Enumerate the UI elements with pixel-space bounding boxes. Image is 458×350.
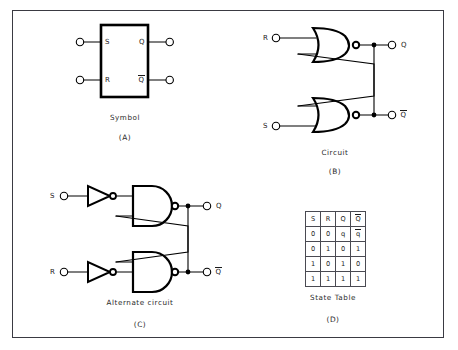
cell-q: 1 xyxy=(336,272,351,287)
panel-b-pin-r: R xyxy=(263,34,268,42)
figure-linework xyxy=(0,0,458,350)
panel-c-pin-qbar: Q xyxy=(216,268,222,276)
panel-b-nor-circuit xyxy=(272,28,395,132)
nand-gate-bottom xyxy=(133,252,172,292)
cell-r: 1 xyxy=(321,272,336,287)
panel-d-caption: State Table xyxy=(283,293,383,302)
table-row: 0 0 q q xyxy=(306,227,366,242)
cell-r: 0 xyxy=(321,257,336,272)
nand-gate-top xyxy=(133,186,172,226)
cell-qbar: q xyxy=(351,227,366,242)
cell-qbar: 1 xyxy=(351,272,366,287)
cell-qbar: 0 xyxy=(351,257,366,272)
panel-a-pin-qbar-text: Q xyxy=(139,76,145,84)
panel-a-caption: Symbol xyxy=(75,113,175,122)
panel-c-pin-r: R xyxy=(50,268,55,276)
panel-a-pin-s: S xyxy=(105,38,109,46)
panel-c-caption: Alternate circuit xyxy=(85,298,195,307)
panel-a-pin-qbar: Q xyxy=(139,76,145,84)
state-table: S R Q Q 0 0 q q 0 1 0 1 1 0 1 xyxy=(305,211,366,287)
state-table-header-s: S xyxy=(306,212,321,227)
panel-b-pin-qbar-text: Q xyxy=(401,111,407,119)
state-table-header-qbar: Q xyxy=(351,212,366,227)
panel-c-pin-q: Q xyxy=(216,202,222,210)
cell-q: 1 xyxy=(336,257,351,272)
panel-a-letter: (A) xyxy=(75,133,175,142)
panel-c-pin-qbar-text: Q xyxy=(216,268,222,276)
panel-b-pin-qbar: Q xyxy=(401,111,407,119)
cell-qbar: 1 xyxy=(351,242,366,257)
cell-s: 1 xyxy=(306,272,321,287)
cell-s: 0 xyxy=(306,227,321,242)
state-table-header-r: R xyxy=(321,212,336,227)
table-row: 1 1 1 1 xyxy=(306,272,366,287)
cell-s: 0 xyxy=(306,242,321,257)
table-row: 1 0 1 0 xyxy=(306,257,366,272)
panel-a-symbol xyxy=(76,25,173,97)
cell-q: 0 xyxy=(336,242,351,257)
table-row: 0 1 0 1 xyxy=(306,242,366,257)
panel-c-letter: (C) xyxy=(85,320,195,329)
inverter-s xyxy=(88,186,110,206)
sr-latch-figure: S R Q Q Symbol (A) R S Q Q Circuit (B) S… xyxy=(0,0,458,350)
cell-r: 1 xyxy=(321,242,336,257)
panel-b-pin-s: S xyxy=(263,122,267,130)
cell-s: 1 xyxy=(306,257,321,272)
panel-a-pin-q: Q xyxy=(139,38,145,46)
panel-c-nand-circuit xyxy=(60,186,210,292)
panel-b-pin-q: Q xyxy=(401,41,407,49)
cell-q: q xyxy=(336,227,351,242)
state-table-header-row: S R Q Q xyxy=(306,212,366,227)
state-table-header-q: Q xyxy=(336,212,351,227)
panel-d-letter: (D) xyxy=(283,315,383,324)
panel-c-pin-s: S xyxy=(50,192,54,200)
inverter-r xyxy=(88,262,110,282)
panel-b-letter: (B) xyxy=(285,167,385,176)
panel-a-pin-r: R xyxy=(105,76,110,84)
cell-r: 0 xyxy=(321,227,336,242)
panel-b-caption: Circuit xyxy=(285,148,385,157)
